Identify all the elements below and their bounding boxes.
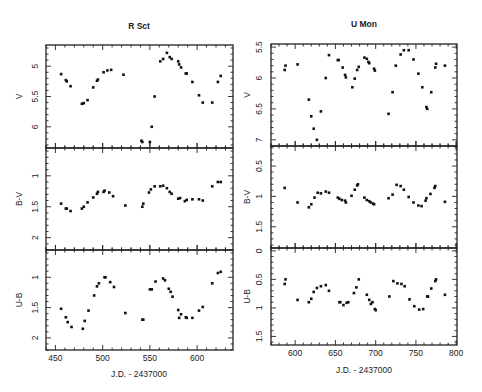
data-point [312,291,315,294]
data-point [191,317,194,320]
y-tick-label: 1 [254,194,264,199]
data-point [429,193,432,196]
chart-title-r-sct: R Sct [128,21,150,31]
y-axis-label: B-V [242,190,252,205]
data-point [124,312,127,315]
y-axis-label: U-B [242,289,252,304]
panel-bv: 11.52B-V [14,143,233,250]
data-point [198,309,201,312]
data-point [166,52,169,55]
data-point [424,199,427,202]
data-point [69,85,72,88]
panel-v: 5.566.57V [242,41,457,146]
data-point [201,306,204,309]
data-point [86,201,89,204]
data-point [162,58,165,61]
data-point [169,291,172,294]
data-point [316,191,319,194]
data-point [345,76,348,79]
data-point [217,81,220,84]
data-point [310,115,313,118]
data-point [366,199,369,202]
x-tick-label: 650 [328,348,342,358]
data-point [296,201,299,204]
data-point [113,286,116,289]
data-point [82,102,85,105]
data-point [60,307,63,310]
data-point [345,201,348,204]
data-point [171,295,174,298]
plot-frame [271,44,457,146]
data-point [308,98,311,101]
data-point [60,202,63,205]
panel-ub: 11.52U-B450500550600 [14,245,233,363]
data-point [337,59,340,62]
data-point [65,80,68,83]
data-point [387,113,390,116]
data-point [177,309,180,312]
data-point [353,77,356,80]
data-point [198,198,201,201]
data-point [219,75,222,78]
data-point [170,58,173,61]
data-point [211,101,214,104]
data-point [124,204,127,207]
data-point [396,282,399,285]
data-point [180,313,183,316]
y-tick-label: 2 [30,335,40,340]
data-point [373,203,376,206]
data-point [339,301,342,304]
data-point [92,86,95,89]
y-axis-label: V [14,93,24,99]
data-point [185,199,188,202]
data-point [87,309,90,312]
data-point [350,194,353,197]
y-tick-label: 1.5 [254,330,264,342]
data-point [82,205,85,208]
data-point [417,204,420,207]
data-point [399,185,402,188]
data-point [341,199,344,202]
y-tick-label: 6 [254,75,264,80]
data-point [150,188,153,191]
data-point [211,282,214,285]
data-point [201,199,204,202]
data-point [283,69,286,72]
data-point [417,72,420,75]
data-point [426,108,429,111]
data-point [412,201,415,204]
data-point [355,286,358,289]
data-point [328,54,331,57]
data-point [427,295,430,298]
data-point [313,196,316,199]
data-point [162,184,165,187]
data-point [320,285,323,288]
data-point [98,282,101,285]
data-point [219,271,222,274]
x-tick-label: 750 [409,348,423,358]
data-point [112,195,115,198]
data-point [217,272,220,275]
data-point [310,203,313,206]
x-tick-label: 500 [96,353,110,363]
r-sct-panels: 55.56V11.52B-V11.52U-B450500550600 [14,45,233,363]
data-point [149,141,152,144]
plot-frame [46,45,233,148]
data-point [430,91,433,94]
data-point [400,283,403,286]
y-tick-label: 1.5 [254,221,264,233]
data-point [320,192,323,195]
data-point [142,202,145,205]
data-point [106,69,109,72]
data-point [69,210,72,213]
data-point [353,292,356,295]
data-point [357,183,360,186]
data-point [328,289,331,292]
data-point [356,69,359,72]
data-point [435,278,438,281]
data-point [283,283,286,286]
data-point [328,191,331,194]
y-axis-label: B-V [14,192,24,207]
y-tick-label: 6.5 [254,103,264,115]
data-point [403,285,406,288]
